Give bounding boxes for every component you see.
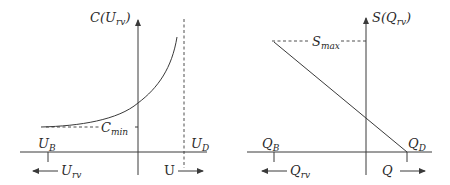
ud-label: UD bbox=[191, 136, 209, 153]
qd-label: QD bbox=[408, 136, 426, 153]
ub-label: UB bbox=[38, 136, 56, 153]
cmin-label: Cmin bbox=[101, 120, 128, 137]
u-direction-label: U bbox=[164, 163, 175, 178]
urv-direction-label: Urv bbox=[61, 163, 81, 180]
diagram-figure: C(Urv) Cmin UB UD Urv U S(Qrv) Smax QB Q… bbox=[0, 0, 450, 185]
q-direction-label: Q bbox=[382, 163, 393, 178]
smax-label: Smax bbox=[312, 34, 340, 51]
left-y-axis-label: C(Urv) bbox=[90, 10, 130, 27]
left-panel-cost-curve: C(Urv) Cmin UB UD Urv U bbox=[20, 10, 209, 180]
storage-line bbox=[274, 42, 407, 152]
right-panel-storage-line: S(Qrv) Smax QB QD Qrv Q bbox=[247, 10, 432, 180]
right-y-axis-label: S(Qrv) bbox=[372, 10, 411, 27]
cost-curve bbox=[41, 37, 177, 127]
qrv-direction-label: Qrv bbox=[290, 163, 310, 180]
qb-label: QB bbox=[262, 136, 280, 153]
